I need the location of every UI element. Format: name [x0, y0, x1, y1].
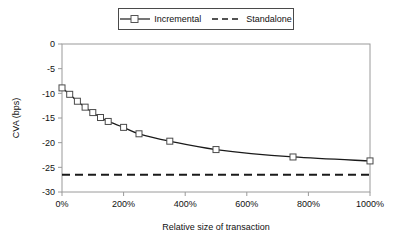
data-point-marker [98, 115, 104, 121]
y-tick-label: -15 [42, 113, 55, 123]
legend-swatch-incremental-icon [120, 13, 150, 25]
chart-plot: 0-5-10-15-20-25-30 0%200%400%600%800%100… [0, 0, 401, 243]
data-point-marker [59, 85, 65, 91]
y-axis-ticks [58, 44, 62, 192]
y-axis-tick-labels: 0-5-10-15-20-25-30 [42, 39, 55, 197]
legend-label-standalone: Standalone [246, 15, 292, 24]
data-point-marker [74, 98, 80, 104]
data-point-marker [82, 104, 88, 110]
y-tick-label: -10 [42, 89, 55, 99]
x-tick-label: 600% [235, 199, 258, 209]
y-tick-label: 0 [50, 39, 55, 49]
y-tick-label: -30 [42, 187, 55, 197]
x-tick-label: 400% [174, 199, 197, 209]
legend-swatch-standalone-icon [212, 13, 242, 25]
y-tick-label: -20 [42, 138, 55, 148]
y-tick-label: -25 [42, 163, 55, 173]
x-tick-label: 800% [297, 199, 320, 209]
x-tick-label: 0% [55, 199, 68, 209]
legend-label-incremental: Incremental [154, 15, 201, 24]
data-point-marker [367, 158, 373, 164]
data-point-marker [290, 154, 296, 160]
x-tick-label: 1000% [356, 199, 384, 209]
data-point-marker [105, 118, 111, 124]
data-point-marker [121, 124, 127, 130]
legend-item-incremental: Incremental [120, 13, 201, 25]
data-point-marker [67, 91, 73, 97]
data-point-marker [213, 147, 219, 153]
data-point-marker [90, 110, 96, 116]
data-point-marker [136, 131, 142, 137]
legend-item-standalone: Standalone [212, 13, 292, 25]
y-tick-label: -5 [47, 64, 55, 74]
x-tick-label: 200% [112, 199, 135, 209]
data-point-marker [167, 138, 173, 144]
x-axis-title: Relative size of transaction [162, 222, 270, 232]
chart-legend: Incremental Standalone [118, 8, 294, 30]
chart-figure: Incremental Standalone 0-5-10-15-20-25-3… [0, 0, 401, 243]
y-axis-title: CVA (bps) [11, 98, 21, 138]
x-axis-ticks [62, 192, 370, 196]
x-axis-tick-labels: 0%200%400%600%800%1000% [55, 199, 384, 209]
